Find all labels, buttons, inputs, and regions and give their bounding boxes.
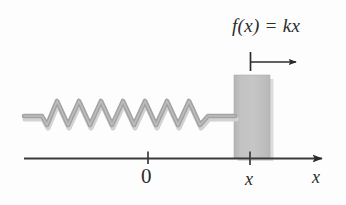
block-mass (234, 75, 270, 158)
force-equation-label: f(x) = kx (232, 16, 300, 35)
block-position-label: x (245, 170, 253, 188)
origin-label: 0 (141, 166, 152, 187)
force-arrow (250, 52, 296, 71)
spring-force-diagram: f(x) = kx 0 x x (0, 0, 346, 205)
x-axis-name-label: x (312, 168, 320, 186)
